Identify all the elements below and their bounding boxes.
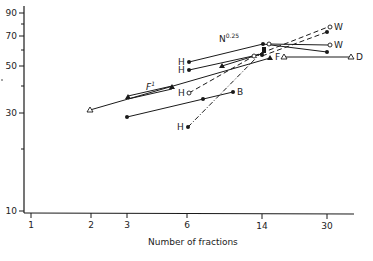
label-d: D	[356, 52, 363, 62]
x-tick-3: 3	[124, 220, 130, 230]
x-tick-2: 2	[88, 220, 94, 230]
label-f: F	[275, 52, 280, 62]
label-h-open: H	[178, 88, 185, 98]
y-tick-50: 50	[6, 61, 18, 71]
y-tick-30: 30	[6, 108, 18, 118]
x-tick-30: 30	[321, 221, 333, 231]
label-w-mid: W	[334, 40, 343, 50]
label-h-lower: H	[178, 65, 185, 75]
label-w-top: W	[334, 22, 343, 32]
label-b: B	[237, 87, 243, 97]
y-tick-70: 70	[6, 31, 18, 41]
x-tick-14: 14	[256, 221, 268, 231]
x-axis-title: Number of fractions	[148, 237, 238, 247]
chart-canvas: 90 70 50 30 10 1 2 3 6 14 30 Number of f…	[0, 0, 373, 261]
y-tick-10: 10	[6, 206, 18, 216]
x-tick-6: 6	[184, 220, 190, 230]
label-n-exponent: N0.25	[219, 32, 239, 44]
x-axis: 1 2 3 6 14 30 Number of fractions	[24, 213, 354, 247]
y-axis: 90 70 50 30 10	[1, 6, 24, 216]
x-tick-1: 1	[28, 220, 34, 230]
series-labels: H H H H B F W W D N0.25 F1	[146, 22, 363, 132]
y-tick-90: 90	[6, 8, 18, 18]
label-h-bottom: H	[177, 122, 184, 132]
